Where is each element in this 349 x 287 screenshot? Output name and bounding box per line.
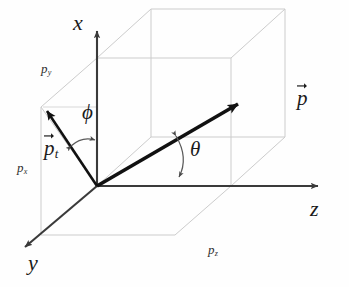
box-edge-diag-bottom-left <box>97 137 151 186</box>
angle-label-theta: θ <box>190 139 200 160</box>
component-label-py: py <box>41 62 51 77</box>
vector-pt-subscript: t <box>55 146 59 161</box>
vector-pt-letter: p <box>44 136 55 160</box>
axis-label-x: x <box>73 12 83 34</box>
component-px-letter: p <box>17 160 24 175</box>
guide-lines <box>43 98 245 107</box>
angle-arc-theta <box>176 136 183 177</box>
axes-group <box>25 31 318 247</box>
component-label-pz: pz <box>208 243 218 258</box>
box-edge-diag-bottom-right <box>231 137 285 186</box>
vector-label-pt: p t <box>44 138 58 160</box>
axis-label-z: z <box>310 198 319 220</box>
component-px-subscript: x <box>24 167 28 176</box>
ground-edge-right-diag <box>175 186 231 235</box>
vector-pt-glyph: p <box>44 138 55 159</box>
angle-arc-phi <box>71 139 95 146</box>
vector-p-glyph: p <box>297 88 308 109</box>
vector-label-p: p <box>297 88 308 109</box>
figure-3d-vector-diagram: x y z p p t ϕ θ py <box>0 0 349 287</box>
component-label-px: px <box>17 161 27 176</box>
component-py-subscript: y <box>48 68 52 77</box>
component-py-letter: p <box>41 61 48 76</box>
vector-p-letter: p <box>297 86 308 110</box>
vector-p-line <box>97 104 238 186</box>
box-edge-diag-top-right <box>231 9 285 58</box>
angle-label-phi: ϕ <box>82 102 93 123</box>
axis-line-y <box>25 186 97 247</box>
axis-label-y: y <box>28 252 38 274</box>
component-pz-subscript: z <box>215 249 218 258</box>
component-pz-letter: p <box>208 242 215 257</box>
box-edge-diag-top-left <box>97 9 151 58</box>
